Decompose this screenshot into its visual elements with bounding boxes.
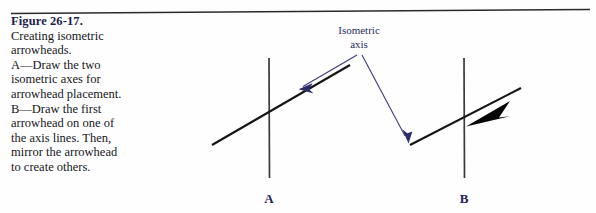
panel-b-diagonal-axis [410,88,521,145]
callout-leader-left [303,55,357,87]
rule-line [11,10,590,14]
figure-caption-block: Figure 26-17. Creating isometric arrowhe… [11,14,181,175]
isometric-arrowhead-diagram: Isometric axis A B [190,14,596,213]
figure-number-label: Figure 26-17. [11,14,181,29]
panel-label-a: A [264,191,274,206]
panel-a-diagonal-axis [212,65,350,145]
figure-caption-text: Creating isometric arrowheads. A—Draw th… [11,29,181,175]
callout-leader-right-arrowhead [402,129,412,143]
panel-a-vertical-axis [269,58,270,178]
figure-page: Figure 26-17. Creating isometric arrowhe… [0,0,596,213]
callout-label-line2: axis [350,38,368,50]
callout-label-line1: Isometric [338,24,380,36]
callout-leader-right [362,55,405,136]
panel-label-b: B [460,191,469,206]
diagram-svg: Isometric axis A B [190,14,596,213]
